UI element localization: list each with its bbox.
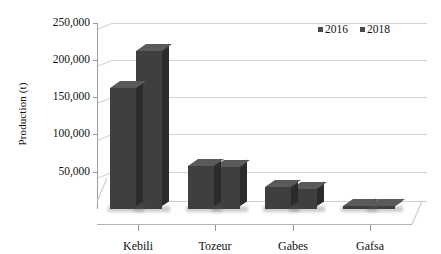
x-axis-tick	[215, 225, 216, 231]
plot-area: Kebili Tozeur Gabes Gafsa	[97, 23, 427, 209]
chart-legend: 2016 2018	[318, 24, 390, 36]
bar-gabes-2016	[265, 187, 291, 209]
y-tick-label: 200,000	[32, 54, 90, 66]
bar-side-face	[136, 80, 143, 206]
bar-front-face	[265, 187, 291, 209]
floor-front-edge	[97, 224, 412, 225]
bar-front-face	[343, 206, 369, 209]
y-tick-label: 100,000	[32, 128, 90, 140]
y-axis-tick-labels: 250,000 200,000 150,000 100,000 50,000	[32, 0, 90, 254]
legend-item-2016[interactable]: 2016	[318, 24, 348, 36]
bar-tozeur-2016	[188, 166, 214, 209]
legend-item-2018[interactable]: 2018	[360, 24, 390, 36]
bars-layer	[97, 23, 427, 209]
x-axis-tick	[370, 225, 371, 231]
legend-label: 2016	[325, 24, 348, 36]
bar-gafsa-2016	[343, 206, 369, 209]
x-axis-label: Gabes	[253, 239, 333, 254]
y-tick-label: 250,000	[32, 17, 90, 29]
bar-front-face	[188, 166, 214, 209]
bar-kebili-2016	[110, 88, 136, 209]
square-marker-icon	[318, 27, 323, 32]
x-axis-tick	[293, 225, 294, 231]
bar-side-face	[162, 43, 169, 206]
legend-label: 2018	[367, 24, 390, 36]
x-axis-tick	[138, 225, 139, 231]
bar-chart: Production (t) 250,000 200,000 150,000 1…	[0, 0, 441, 254]
x-axis-label: Tozeur	[175, 239, 255, 254]
bar-front-face	[110, 88, 136, 209]
y-tick-label: 50,000	[32, 166, 90, 178]
y-axis-title: Production (t)	[16, 44, 28, 184]
x-axis-label: Gafsa	[330, 239, 410, 254]
x-axis-label: Kebili	[98, 239, 178, 254]
y-tick-label: 150,000	[32, 91, 90, 103]
square-marker-icon	[360, 27, 365, 32]
